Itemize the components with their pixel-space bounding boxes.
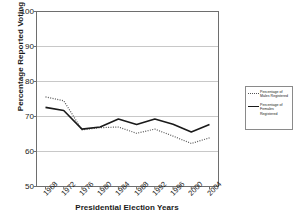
legend-label: Percentage of Females Registered (259, 103, 290, 116)
series-line (46, 97, 210, 144)
gridlines (34, 12, 219, 187)
x-axis-title: Presidential Election Years (36, 203, 218, 212)
legend-entry[interactable]: Percentage of Females Registered (248, 103, 290, 116)
series-lines (46, 97, 210, 144)
plot-frame (37, 12, 219, 187)
legend-label: Percentage of Males Registered (259, 90, 290, 99)
legend-swatch-dotted-icon (248, 91, 259, 97)
chart-legend: Percentage of Males RegisteredPercentage… (245, 86, 293, 130)
series-line (46, 107, 210, 131)
legend-entry[interactable]: Percentage of Males Registered (248, 90, 290, 99)
chart-container: Percentage Reported Voting 5060708090100… (0, 0, 296, 216)
legend-swatch-solid-icon (248, 104, 259, 110)
